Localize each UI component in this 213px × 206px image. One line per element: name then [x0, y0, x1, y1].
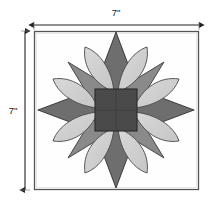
quilt-block-diagram: 7" 7"	[0, 0, 213, 206]
width-dimension-label: 7"	[112, 7, 121, 18]
center-square-group	[95, 89, 137, 131]
height-dimension-label: 7"	[9, 105, 18, 116]
diagram-root: 7" 7"	[0, 0, 213, 206]
